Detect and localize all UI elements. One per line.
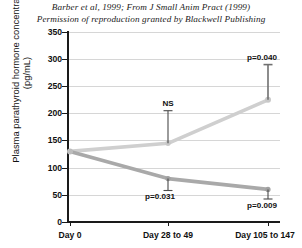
gridline-150 xyxy=(68,140,280,141)
x-tick-label-day105: Day 105 to 147 xyxy=(235,230,295,240)
y-tick-mark-50 xyxy=(62,195,68,196)
gridline-350 xyxy=(68,32,280,33)
x-tick-mark-day0 xyxy=(70,221,71,226)
y-tick-label-250: 250 xyxy=(32,81,62,91)
chart-title: Barber et al, 1999; From J Small Anim Pr… xyxy=(0,2,302,25)
annotation-p031: p=0.031 xyxy=(145,192,175,201)
x-tick-mark-day28 xyxy=(168,221,169,226)
annotation-ns: NS xyxy=(162,99,173,108)
chart-figure: Barber et al, 1999; From J Small Anim Pr… xyxy=(0,0,302,248)
y-tick-mark-350 xyxy=(62,32,68,33)
y-axis-label: Plasma parathyroid hormone concentration… xyxy=(11,0,33,173)
y-tick-mark-200 xyxy=(62,113,68,114)
annotation-p009: p=0.009 xyxy=(247,201,277,210)
x-tick-label-day28: Day 28 to 49 xyxy=(143,230,193,240)
gridline-100 xyxy=(68,168,280,169)
x-axis-line xyxy=(67,221,280,223)
y-tick-label-200: 200 xyxy=(32,108,62,118)
y-axis-label-line-1: Plasma parathyroid hormone concentration xyxy=(11,0,22,173)
y-tick-label-100: 100 xyxy=(32,163,62,173)
y-tick-label-150: 150 xyxy=(32,135,62,145)
y-tick-mark-0 xyxy=(62,222,68,223)
y-tick-label-0: 0 xyxy=(32,217,62,227)
gridline-200 xyxy=(68,113,280,114)
gridline-250 xyxy=(68,86,280,87)
annotation-p040: p=0.040 xyxy=(247,53,277,62)
chart-title-line-1: Barber et al, 1999; From J Small Anim Pr… xyxy=(0,2,302,14)
y-tick-label-300: 300 xyxy=(32,54,62,64)
y-tick-mark-150 xyxy=(62,140,68,141)
y-tick-label-350: 350 xyxy=(32,27,62,37)
y-tick-mark-250 xyxy=(62,86,68,87)
chart-title-subtitle: Permission of reproduction granted by Bl… xyxy=(0,14,302,26)
x-tick-mark-day105 xyxy=(268,221,269,226)
x-tick-label-day0: Day 0 xyxy=(59,230,82,240)
y-tick-mark-300 xyxy=(62,59,68,60)
y-tick-label-50: 50 xyxy=(32,190,62,200)
y-axis-label-units: (pg/mL) xyxy=(22,0,33,173)
y-tick-mark-100 xyxy=(62,168,68,169)
